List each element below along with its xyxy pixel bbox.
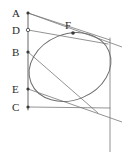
point-marker-b: [26, 50, 29, 53]
segment-tangent-b-lower: [28, 52, 98, 113]
point-marker-e: [26, 87, 29, 90]
point-label-a: A: [12, 7, 20, 19]
segment-tangent-a-upper: [28, 13, 122, 47]
geometry-figure: A D B E C F: [0, 0, 122, 152]
conic-group: [19, 21, 122, 114]
point-marker-c: [26, 105, 29, 108]
inscribed-ellipse-shape: [19, 21, 122, 114]
point-marker-f: [71, 31, 75, 35]
point-label-b: B: [12, 46, 19, 58]
point-label-group: A D B E C F: [12, 7, 71, 113]
point-label-e: E: [12, 83, 19, 95]
segment-tangent-e-right: [28, 89, 122, 122]
figure-canvas: A D B E C F: [0, 0, 122, 152]
point-label-d: D: [12, 24, 20, 36]
segment-chord-c-lower: [28, 107, 110, 108]
point-marker-a: [26, 11, 29, 14]
point-marker-d: [26, 28, 29, 31]
point-label-f: F: [65, 19, 71, 31]
point-label-c: C: [12, 101, 19, 113]
